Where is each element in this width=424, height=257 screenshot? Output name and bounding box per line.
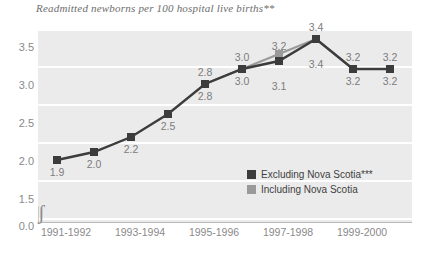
series-including-nova-scotia [201, 35, 394, 88]
data-label: 2.8 [198, 66, 213, 78]
legend-item-including: Including Nova Scotia [247, 183, 373, 196]
data-label: 3.2 [383, 51, 398, 63]
data-label: 2.5 [161, 120, 176, 132]
data-label: 3.4 [309, 58, 324, 70]
data-label: 2.2 [124, 143, 139, 155]
data-label: 2.0 [87, 158, 102, 170]
data-label: 3.1 [272, 80, 287, 92]
data-label: 3.2 [346, 51, 361, 63]
x-tick-label: 1997-1998 [263, 226, 313, 238]
legend-item-excluding: Excluding Nova Scotia*** [247, 168, 373, 181]
series-layer [0, 0, 424, 257]
legend-label: Including Nova Scotia [261, 184, 358, 195]
data-label: 3.2 [383, 75, 398, 87]
data-label: 3.0 [235, 51, 250, 63]
x-tick-label: 1991-1992 [41, 226, 91, 238]
legend-label: Excluding Nova Scotia*** [261, 169, 373, 180]
data-label: 2.8 [198, 90, 213, 102]
data-label: 3.4 [309, 21, 324, 33]
x-tick-label: 1993-1994 [115, 226, 165, 238]
data-label: 1.9 [50, 166, 65, 178]
x-tick-label: 1999-2000 [337, 226, 387, 238]
data-label: 3.2 [272, 40, 287, 52]
data-label: 3.0 [235, 75, 250, 87]
x-tick-label: 1995-1996 [189, 226, 239, 238]
series-excluding-nova-scotia [53, 35, 394, 164]
data-label: 3.2 [346, 75, 361, 87]
chart-figure: Readmitted newborns per 100 hospital liv… [0, 0, 424, 257]
chart-legend: Excluding Nova Scotia*** Including Nova … [247, 168, 373, 198]
legend-swatch-icon [247, 170, 256, 179]
legend-swatch-icon [247, 185, 256, 194]
